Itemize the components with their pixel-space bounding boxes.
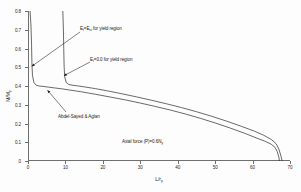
y-tick-label: 0.2 (15, 121, 21, 126)
x-tick (140, 161, 141, 164)
y-tick-label: 0.8 (15, 9, 21, 14)
y-tick-label: 0 (19, 159, 21, 164)
x-tick-label: 70 (288, 165, 293, 170)
y-tick-label: 0.4 (15, 84, 21, 89)
x-tick (28, 161, 29, 164)
annotation-abdel-sayed-aglan: Abdel-Sayed & Aglan (58, 114, 100, 119)
x-tick (290, 161, 291, 164)
x-tick (178, 161, 179, 164)
curve-2 (63, 11, 282, 161)
x-tick (103, 161, 104, 164)
annotation-axial-force: Axial force (P)=0.6Ny (122, 139, 163, 145)
x-tick (65, 161, 66, 164)
y-tick-label: 0.7 (15, 27, 21, 32)
y-tick-label: 0.6 (15, 46, 21, 51)
y-tick-label: 0.3 (15, 102, 21, 107)
annotation-et-est: Et=Est for yield region (80, 26, 122, 32)
y-tick-label: 0.5 (15, 65, 21, 70)
y-axis-title: M/Mp (5, 90, 12, 102)
y-tick-label: 0.1 (15, 140, 21, 145)
x-tick-label: 0 (27, 165, 29, 170)
x-tick-label: 20 (100, 165, 105, 170)
x-axis-title: L/ry (28, 176, 290, 183)
x-tick-label: 60 (250, 165, 255, 170)
x-tick-label: 30 (138, 165, 143, 170)
x-tick-label: 40 (175, 165, 180, 170)
x-tick (215, 161, 216, 164)
x-tick (253, 161, 254, 164)
figure-container: 00.10.20.30.40.50.60.70.8 01020304050607… (0, 0, 301, 192)
annotation-et-zero: Et=0.0 for yield region (90, 57, 132, 63)
x-tick-label: 10 (63, 165, 68, 170)
x-tick-label: 50 (213, 165, 218, 170)
